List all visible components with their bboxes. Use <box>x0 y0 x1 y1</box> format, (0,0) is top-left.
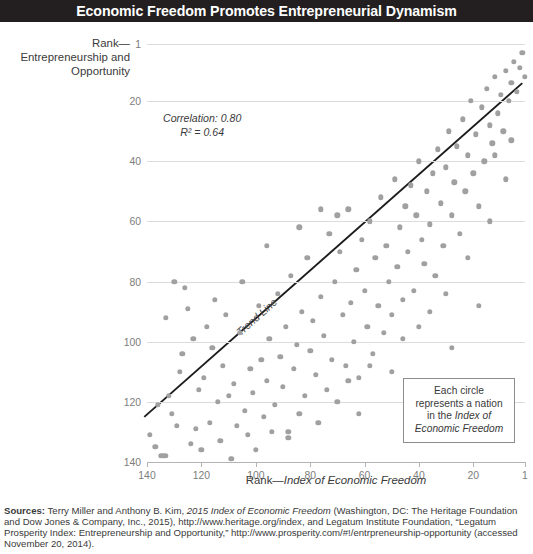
legend-line-4: Economic Freedom <box>408 423 510 436</box>
sources-text-a: Terry Miller and Anthony B. Kim, <box>45 505 187 516</box>
x-axis-tick-mark <box>310 462 311 467</box>
y-axis-tick-label: 60 <box>129 216 141 227</box>
gridline <box>147 161 525 162</box>
x-axis-caption: Rank—Index of Economic Freedom <box>147 474 525 486</box>
chart-page: Economic Freedom Promotes Entrepreneuria… <box>0 0 533 554</box>
y-axis-tick-label: 100 <box>124 336 141 347</box>
x-axis-tick-mark <box>256 462 257 467</box>
x-axis-tick-mark <box>201 462 202 467</box>
legend-line-4-italic: Economic Freedom <box>415 423 503 434</box>
sources-label: Sources: <box>4 505 45 516</box>
x-axis-line <box>147 462 525 463</box>
y-axis-tick-label: 40 <box>129 156 141 167</box>
legend-line-3-plain: in the <box>427 410 455 421</box>
sources-note: Sources: Terry Miller and Anthony B. Kim… <box>4 505 529 549</box>
y-axis-tick-label: 120 <box>124 396 141 407</box>
legend-line-2: represents a nation <box>408 398 510 411</box>
legend-line-3-italic: Index of <box>455 410 491 421</box>
x-axis-caption-plain: Rank— <box>246 474 284 486</box>
x-axis-tick-mark <box>147 462 148 467</box>
scatter-point <box>522 74 527 79</box>
gridline <box>147 342 525 343</box>
gridline <box>147 221 525 222</box>
x-axis-tick-mark <box>473 462 474 467</box>
x-axis-tick-mark <box>525 462 526 467</box>
x-axis-tick-mark <box>365 462 366 467</box>
x-axis-caption-italic: Index of Economic Freedom <box>284 474 426 486</box>
sources-italic-a: 2015 Index of Economic Freedom <box>187 505 331 516</box>
page-title: Economic Freedom Promotes Entrepreneuria… <box>0 0 533 22</box>
legend-box: Each circle represents a nation in the I… <box>403 378 515 443</box>
legend-line-3: in the Index of <box>408 410 510 423</box>
y-axis-tick-label: 20 <box>129 96 141 107</box>
y-axis-tick-label: 80 <box>129 276 141 287</box>
gridline <box>147 44 525 45</box>
r-squared-value: R² = 0.64 <box>163 126 241 140</box>
x-axis-tick-mark <box>419 462 420 467</box>
y-axis-caption: Rank—Entrepreneurship and Opportunity <box>18 36 130 79</box>
y-axis-tick-label: 1 <box>135 39 141 50</box>
correlation-value: Correlation: 0.80 <box>163 112 241 126</box>
correlation-annotation: Correlation: 0.80 R² = 0.64 <box>163 112 241 139</box>
y-axis-tick-label: 140 <box>124 457 141 468</box>
legend-line-1: Each circle <box>408 385 510 398</box>
